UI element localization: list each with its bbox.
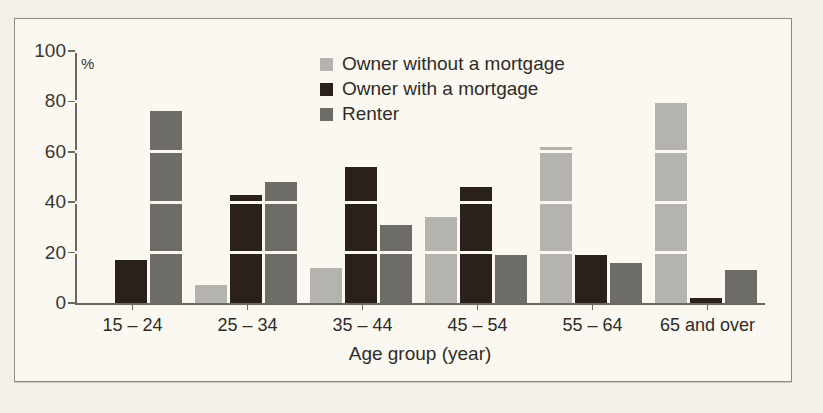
y-tick-label: 20 xyxy=(45,242,66,264)
x-tick xyxy=(132,303,134,310)
y-tick-label: 40 xyxy=(45,191,66,213)
y-tick xyxy=(68,252,75,254)
y-tick xyxy=(68,151,75,153)
y-tick xyxy=(68,50,75,52)
legend-swatch-icon xyxy=(320,108,333,121)
bar xyxy=(150,111,182,303)
bar-group xyxy=(655,51,760,303)
x-tick xyxy=(362,303,364,310)
bar xyxy=(230,195,262,303)
legend-item-owner-with-mortgage: Owner with a mortgage xyxy=(320,78,565,100)
bar xyxy=(310,268,342,303)
bar xyxy=(425,217,457,303)
x-tick-label: 35 – 44 xyxy=(332,315,392,336)
bar xyxy=(265,182,297,303)
bar xyxy=(655,101,687,303)
bar xyxy=(115,260,147,303)
legend-item-renter: Renter xyxy=(320,103,565,125)
x-tick-label: 55 – 64 xyxy=(562,315,622,336)
x-tick-label: 15 – 24 xyxy=(102,315,162,336)
bar xyxy=(495,255,527,303)
chart-figure: % 020406080100 15 – 2425 – 3435 – 4445 –… xyxy=(14,18,792,382)
x-tick xyxy=(477,303,479,310)
x-tick xyxy=(707,303,709,310)
legend-label: Renter xyxy=(342,103,399,125)
x-tick-label: 25 – 34 xyxy=(217,315,277,336)
bar xyxy=(575,255,607,303)
x-tick-label: 45 – 54 xyxy=(447,315,507,336)
legend-swatch-icon xyxy=(320,83,333,96)
legend-swatch-icon xyxy=(320,58,333,71)
bar xyxy=(540,147,572,303)
legend-label: Owner without a mortgage xyxy=(342,53,565,75)
bar-group xyxy=(195,51,300,303)
y-tick-label: 0 xyxy=(55,292,66,314)
x-axis-title: Age group (year) xyxy=(349,343,492,365)
legend-item-owner-without-mortgage: Owner without a mortgage xyxy=(320,53,565,75)
bar xyxy=(725,270,757,303)
x-axis-line xyxy=(75,303,765,305)
y-tick xyxy=(68,201,75,203)
y-tick xyxy=(68,101,75,103)
chart-legend: Owner without a mortgage Owner with a mo… xyxy=(320,53,565,125)
x-tick xyxy=(247,303,249,310)
y-tick xyxy=(68,302,75,304)
bar xyxy=(460,187,492,303)
bar-group xyxy=(80,51,185,303)
x-tick xyxy=(592,303,594,310)
bar xyxy=(610,263,642,303)
x-tick-label: 65 and over xyxy=(660,315,755,336)
bar xyxy=(195,285,227,303)
y-tick-label: 80 xyxy=(45,90,66,112)
y-tick-label: 60 xyxy=(45,141,66,163)
bar xyxy=(345,167,377,303)
y-tick-label: 100 xyxy=(34,40,66,62)
bar xyxy=(380,225,412,303)
legend-label: Owner with a mortgage xyxy=(342,78,538,100)
